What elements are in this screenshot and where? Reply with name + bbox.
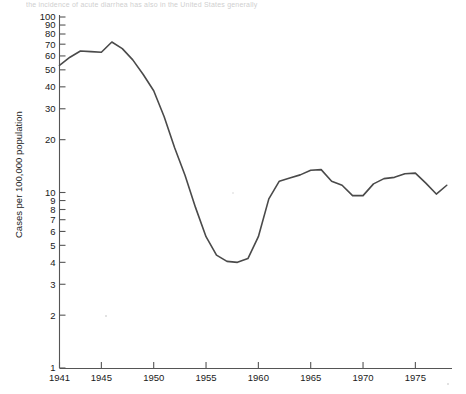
y-tick-label: 7 bbox=[50, 214, 55, 225]
x-tick-label: 1960 bbox=[248, 372, 269, 383]
x-tick-label: 1950 bbox=[143, 372, 164, 383]
line-chart-plot: Cases per 100,000 population 10090807060… bbox=[0, 0, 466, 394]
y-axis-ticks: 100908070605040302010987654321 bbox=[40, 11, 66, 373]
y-tick-label: 40 bbox=[45, 81, 56, 92]
y-tick-label: 30 bbox=[45, 103, 56, 114]
data-series-line bbox=[60, 42, 447, 262]
y-tick-label: 60 bbox=[45, 50, 56, 61]
x-tick-label: 1965 bbox=[300, 372, 321, 383]
scan-speck bbox=[447, 383, 449, 385]
y-tick-label: 6 bbox=[50, 226, 55, 237]
y-tick-label: 5 bbox=[50, 240, 55, 251]
y-tick-label: 50 bbox=[45, 64, 56, 75]
y-axis-title: Cases per 100,000 population bbox=[13, 111, 24, 238]
y-tick-label: 2 bbox=[50, 310, 55, 321]
x-tick-label: 1941 bbox=[49, 372, 70, 383]
x-tick-label: 1970 bbox=[352, 372, 373, 383]
y-tick-label: 20 bbox=[45, 134, 56, 145]
x-tick-label: 1975 bbox=[405, 372, 426, 383]
x-tick-label: 1945 bbox=[91, 372, 112, 383]
scan-speck bbox=[232, 192, 234, 194]
y-tick-label: 3 bbox=[50, 279, 55, 290]
x-axis-ticks: 19411945195019551960196519701975 bbox=[49, 362, 426, 383]
y-tick-label: 4 bbox=[50, 257, 55, 268]
y-tick-label: 70 bbox=[45, 39, 56, 50]
chart-figure: the incidence of acute diarrhea has also… bbox=[0, 0, 466, 394]
x-tick-label: 1955 bbox=[195, 372, 216, 383]
scan-speck bbox=[105, 315, 107, 317]
